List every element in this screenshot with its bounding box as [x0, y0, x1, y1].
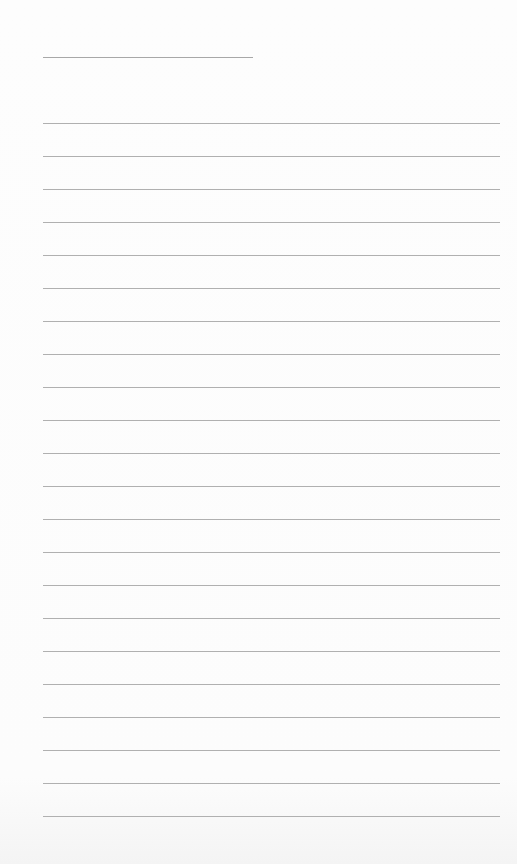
ruled-line: [43, 783, 500, 784]
ruled-line: [43, 156, 500, 157]
ruled-line: [43, 453, 500, 454]
ruled-line: [43, 618, 500, 619]
ruled-line: [43, 354, 500, 355]
ruled-line: [43, 552, 500, 553]
ruled-line: [43, 651, 500, 652]
ruled-line: [43, 189, 500, 190]
ruled-line: [43, 387, 500, 388]
ruled-line: [43, 816, 500, 817]
title-line: [43, 57, 253, 58]
ruled-line: [43, 321, 500, 322]
ruled-line: [43, 486, 500, 487]
ruled-line: [43, 519, 500, 520]
ruled-line: [43, 750, 500, 751]
ruled-line: [43, 684, 500, 685]
ruled-line: [43, 255, 500, 256]
ruled-line: [43, 288, 500, 289]
ruled-line: [43, 585, 500, 586]
lined-paper-page: [0, 0, 517, 864]
ruled-line: [43, 123, 500, 124]
ruled-line: [43, 717, 500, 718]
ruled-line: [43, 420, 500, 421]
ruled-line: [43, 222, 500, 223]
